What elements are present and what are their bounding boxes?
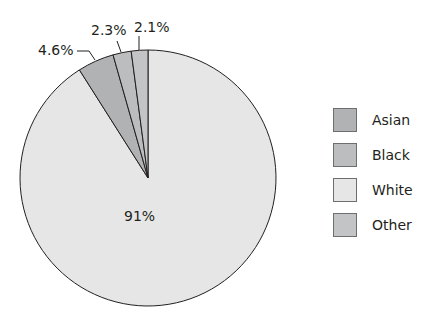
pie-slices [20,50,276,306]
leader-line-black [117,41,121,52]
legend-item-other: Other [333,207,413,242]
legend-swatch-white [333,178,357,202]
legend: Asian Black White Other [333,102,413,242]
legend-item-black: Black [333,137,413,172]
legend-label-white: White [372,182,413,198]
legend-label-black: Black [372,147,410,163]
label-black-pct: 2.3% [91,22,127,38]
legend-label-asian: Asian [372,112,410,128]
legend-label-other: Other [372,217,412,233]
leader-line-asian [77,51,95,60]
label-asian-pct: 4.6% [38,42,74,58]
legend-item-asian: Asian [333,102,413,137]
label-white-pct: 91% [124,208,155,224]
legend-swatch-black [333,143,357,167]
legend-swatch-asian [333,108,357,132]
legend-item-white: White [333,172,413,207]
label-other-pct: 2.1% [134,19,170,35]
legend-swatch-other [333,213,357,237]
